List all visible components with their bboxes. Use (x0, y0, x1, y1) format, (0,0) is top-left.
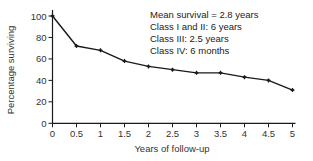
y-tick-label: 40 (36, 75, 47, 86)
x-tick-label: 1 (98, 128, 103, 139)
x-tick-label: 3.5 (214, 128, 227, 139)
annotation-class-1-2: Class I and II: 6 years (150, 21, 242, 32)
annotation-mean: Mean survival = 2.8 years (150, 9, 259, 20)
data-point-dot (75, 45, 78, 48)
x-tick-label: 1.5 (118, 128, 131, 139)
y-ticks: 020406080100 (31, 11, 53, 129)
annotation-class-4: Class IV: 6 months (150, 45, 230, 56)
y-axis-title: Percentage surviving (5, 26, 16, 115)
data-point-dot (291, 89, 294, 92)
x-tick-label: 2 (146, 128, 151, 139)
data-point-dot (147, 65, 150, 68)
data-point-dot (171, 68, 174, 71)
y-tick-label: 20 (36, 96, 47, 107)
survival-chart: 00.511.522.533.544.55 020406080100 Years… (0, 0, 313, 161)
x-tick-label: 3 (194, 128, 199, 139)
y-tick-label: 100 (31, 11, 47, 22)
data-point-dot (267, 79, 270, 82)
y-tick-label: 80 (36, 32, 47, 43)
annotation-box: Mean survival = 2.8 years Class I and II… (150, 9, 259, 56)
x-tick-label: 0.5 (70, 128, 83, 139)
annotation-class-3: Class III: 2.5 years (150, 33, 229, 44)
data-point-dot (195, 72, 198, 75)
x-ticks: 00.511.522.533.544.55 (50, 123, 295, 139)
x-tick-label: 4 (242, 128, 247, 139)
x-tick-label: 0 (50, 128, 55, 139)
x-tick-label: 4.5 (262, 128, 275, 139)
data-point-dot (243, 76, 246, 79)
data-point-dot (123, 60, 126, 63)
y-tick-label: 60 (36, 53, 47, 64)
x-tick-label: 5 (290, 128, 295, 139)
x-tick-label: 2.5 (166, 128, 179, 139)
data-point-dot (51, 15, 54, 18)
x-axis-title: Years of follow-up (134, 143, 209, 154)
data-point-dot (219, 72, 222, 75)
y-tick-label: 0 (41, 118, 46, 129)
data-point-dot (99, 49, 102, 52)
